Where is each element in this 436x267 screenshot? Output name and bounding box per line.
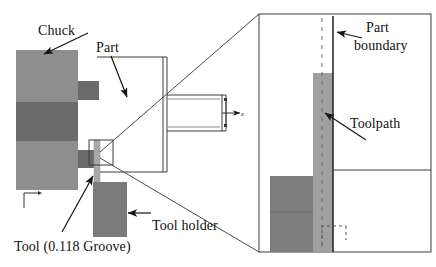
axis-marker-main-path bbox=[24, 193, 38, 208]
label-part: Part bbox=[96, 40, 119, 55]
part-large-diameter bbox=[97, 57, 163, 172]
label-axis-part: z bbox=[241, 107, 244, 122]
part-axis-tick-bottom bbox=[224, 124, 227, 127]
label-tool-holder: Tool holder bbox=[152, 218, 218, 233]
label-part-boundary-line1: Part bbox=[366, 20, 389, 35]
axis-marker-main-arrow bbox=[38, 191, 42, 195]
part-outline bbox=[97, 57, 226, 172]
detail-tool-block bbox=[270, 176, 313, 252]
label-chuck: Chuck bbox=[38, 23, 75, 38]
figure-canvas: Chuck Part Tool (0.118 Groove) Tool hold… bbox=[0, 0, 436, 267]
chuck-jaw-upper bbox=[78, 81, 99, 100]
leader-part bbox=[111, 56, 127, 97]
label-tool: Tool (0.118 Groove) bbox=[14, 239, 131, 254]
label-toolpath: Toolpath bbox=[350, 116, 400, 131]
part-axis-tick-top bbox=[224, 98, 227, 101]
tool-holder-block bbox=[93, 182, 127, 237]
tool-groove-insert bbox=[94, 140, 100, 182]
chuck-jaw-band bbox=[16, 102, 78, 141]
chuck-assembly bbox=[16, 50, 99, 190]
axis-marker-icon-main bbox=[24, 191, 42, 208]
axis-marker-icon-part bbox=[222, 98, 240, 127]
label-part-boundary-line2: boundary bbox=[354, 38, 408, 53]
toolpath-band bbox=[313, 73, 333, 252]
part-small-diameter bbox=[167, 95, 222, 131]
leader-arrow-icon-part bbox=[111, 56, 127, 97]
